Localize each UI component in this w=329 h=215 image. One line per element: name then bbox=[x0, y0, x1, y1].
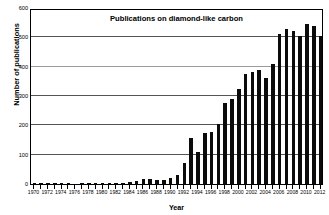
x-tick-label: 1978 bbox=[82, 189, 93, 195]
x-axis-title: Year bbox=[30, 203, 323, 212]
y-tick-label: 200 bbox=[19, 123, 28, 129]
bar bbox=[39, 183, 43, 184]
y-tick-label: 600 bbox=[19, 6, 28, 12]
bar bbox=[67, 183, 71, 184]
bars-layer bbox=[31, 10, 322, 184]
x-tick-label: 1998 bbox=[219, 189, 230, 195]
bar bbox=[101, 183, 105, 184]
bar bbox=[230, 99, 234, 184]
bar bbox=[319, 36, 323, 184]
bar bbox=[162, 180, 166, 184]
bar bbox=[80, 183, 84, 184]
bar bbox=[292, 31, 296, 184]
x-tick-label: 1982 bbox=[110, 189, 121, 195]
x-tick-label: 1990 bbox=[164, 189, 175, 195]
x-tick-label: 1972 bbox=[41, 189, 52, 195]
x-tick-label: 1986 bbox=[137, 189, 148, 195]
bar bbox=[189, 138, 193, 184]
bar bbox=[53, 183, 57, 184]
bar bbox=[176, 175, 180, 184]
y-tick-label: 0 bbox=[25, 182, 28, 188]
plot-area: Publications on diamond-like carbon bbox=[30, 9, 323, 185]
x-tick-label: 1988 bbox=[150, 189, 161, 195]
bar bbox=[237, 89, 241, 184]
bar bbox=[94, 183, 98, 184]
x-tick-label: 2004 bbox=[259, 189, 270, 195]
bar bbox=[87, 183, 91, 184]
x-tick-label: 2012 bbox=[314, 189, 325, 195]
bar bbox=[223, 103, 227, 184]
bar bbox=[46, 183, 50, 184]
x-tick-label: 2006 bbox=[273, 189, 284, 195]
bar bbox=[183, 163, 187, 184]
x-tick-label: 1992 bbox=[178, 189, 189, 195]
bar bbox=[285, 29, 289, 184]
bar bbox=[135, 181, 139, 184]
x-tick-label: 1974 bbox=[55, 189, 66, 195]
bar bbox=[210, 132, 214, 184]
bar bbox=[142, 179, 146, 184]
bar bbox=[203, 133, 207, 184]
x-tick-label: 1970 bbox=[28, 189, 39, 195]
bar bbox=[271, 64, 275, 184]
publications-bar-chart: Number of publications 01002003004005006… bbox=[0, 0, 329, 215]
bar bbox=[244, 74, 248, 184]
bar bbox=[305, 24, 309, 184]
x-tick-label: 1980 bbox=[96, 189, 107, 195]
bar bbox=[148, 179, 152, 184]
y-tick-label: 500 bbox=[19, 35, 28, 41]
x-axis-tick-labels: 1970197219741976197819801982198419861988… bbox=[30, 189, 323, 203]
bar bbox=[217, 124, 221, 184]
bar bbox=[257, 70, 261, 184]
bar bbox=[121, 183, 125, 184]
x-tick-label: 2002 bbox=[246, 189, 257, 195]
x-tick-label: 1984 bbox=[123, 189, 134, 195]
y-tick-label: 400 bbox=[19, 65, 28, 71]
bar bbox=[196, 152, 200, 184]
bar bbox=[128, 182, 132, 184]
x-tick-label: 1976 bbox=[69, 189, 80, 195]
bar bbox=[312, 26, 316, 184]
bar bbox=[114, 183, 118, 184]
bar bbox=[155, 180, 159, 184]
bar bbox=[264, 78, 268, 184]
bar bbox=[33, 183, 37, 184]
bar bbox=[251, 72, 255, 184]
bar bbox=[108, 183, 112, 184]
bar bbox=[169, 178, 173, 184]
y-axis-tick-labels: 0100200300400500600 bbox=[8, 8, 28, 185]
y-tick-label: 300 bbox=[19, 94, 28, 100]
x-tick-label: 2000 bbox=[232, 189, 243, 195]
bar bbox=[60, 183, 64, 184]
y-tick-label: 100 bbox=[19, 153, 28, 159]
bar bbox=[278, 34, 282, 184]
x-tick-label: 1994 bbox=[191, 189, 202, 195]
bar bbox=[298, 36, 302, 184]
x-tick-label: 1996 bbox=[205, 189, 216, 195]
x-tick-label: 2008 bbox=[287, 189, 298, 195]
x-tick-label: 2010 bbox=[300, 189, 311, 195]
